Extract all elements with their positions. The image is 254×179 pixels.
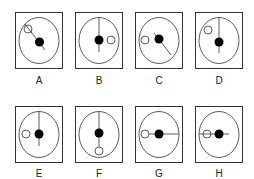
figure-a	[15, 12, 63, 69]
option-panel-h	[195, 106, 243, 163]
option-panel-b	[75, 12, 123, 69]
figure-h	[195, 106, 243, 163]
figure-e	[15, 106, 63, 163]
option-panel-c	[135, 12, 183, 69]
label-g: G	[135, 169, 183, 179]
label-c: C	[135, 76, 183, 86]
option-panel-f	[75, 106, 123, 163]
figure-f	[75, 106, 123, 163]
figure-g	[135, 106, 183, 163]
label-d: D	[195, 76, 243, 86]
option-panel-g	[135, 106, 183, 163]
label-e: E	[15, 169, 63, 179]
option-panel-d	[195, 12, 243, 69]
figure-c	[135, 12, 183, 69]
figure-d	[195, 12, 243, 69]
figure-b	[75, 12, 123, 69]
option-panel-a	[15, 12, 63, 69]
label-a: A	[15, 76, 63, 86]
label-h: H	[195, 169, 243, 179]
label-f: F	[75, 169, 123, 179]
label-b: B	[75, 76, 123, 86]
option-panel-e	[15, 106, 63, 163]
